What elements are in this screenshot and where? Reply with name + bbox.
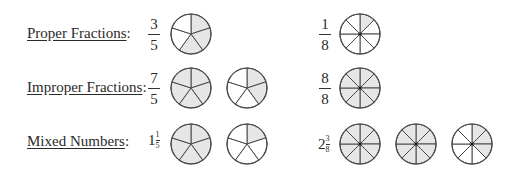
pie-row3-left-1 [171,124,211,164]
pie-row3-left-2 [227,124,267,164]
pie-row1-left-1 [171,14,211,54]
fraction-pie-diagrams [0,0,522,172]
pie-row2-right-1 [340,68,380,108]
pie-row3-right-1 [340,124,380,164]
pie-row3-right-2 [396,124,436,164]
pie-row2-left-2 [227,68,267,108]
pie-row1-right-1 [340,14,380,54]
pie-row2-left-1 [171,68,211,108]
pie-row3-right-3 [452,124,492,164]
